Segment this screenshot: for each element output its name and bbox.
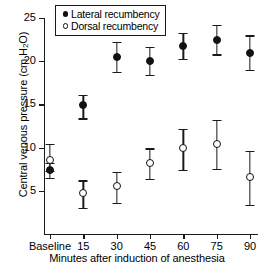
error-bar-cap xyxy=(212,169,221,170)
error-bar-cap xyxy=(246,151,255,152)
x-tick xyxy=(117,234,118,239)
x-tick-label: Baseline xyxy=(29,240,71,252)
y-tick: 10 xyxy=(39,148,44,149)
error-bar-cap xyxy=(79,208,88,209)
x-tick xyxy=(183,234,184,239)
y-axis-title-suffix: O) xyxy=(17,32,29,44)
legend-marker-icon xyxy=(60,23,71,29)
data-point xyxy=(46,156,54,164)
legend-label: Lateral recumbency xyxy=(71,8,160,20)
x-axis-title: Minutes after induction of anesthesia xyxy=(0,252,274,264)
error-bar-cap xyxy=(112,172,121,173)
error-bar-cap xyxy=(246,35,255,36)
error-bar-cap xyxy=(146,179,155,180)
x-tick-label: 45 xyxy=(144,240,156,252)
error-bar-cap xyxy=(179,33,188,34)
y-tick: 15 xyxy=(39,104,44,105)
error-bar-cap xyxy=(212,54,221,55)
error-bar-cap xyxy=(112,72,121,73)
x-tick xyxy=(83,234,84,239)
x-tick-label: 60 xyxy=(177,240,189,252)
data-point xyxy=(79,189,87,197)
x-tick-label: 75 xyxy=(211,240,223,252)
y-axis-line xyxy=(44,18,45,234)
x-tick-label: 30 xyxy=(111,240,123,252)
y-tick-label: 20 xyxy=(24,54,36,66)
x-tick xyxy=(150,234,151,239)
error-bar-cap xyxy=(246,70,255,71)
error-bar-cap xyxy=(179,59,188,60)
y-tick-label: 15 xyxy=(24,97,36,109)
error-bar-cap xyxy=(112,42,121,43)
error-bar-cap xyxy=(146,148,155,149)
y-axis-title: Central venous pressure (cm H2O) xyxy=(17,20,30,210)
chart-legend: Lateral recumbencyDorsal recumbency xyxy=(55,5,166,36)
error-bar-cap xyxy=(212,120,221,121)
y-tick: 5 xyxy=(39,191,44,192)
plot-area: 510152025 Baseline153045607590 xyxy=(44,18,258,234)
y-tick-label: 25 xyxy=(24,11,36,23)
open-circle-icon xyxy=(63,23,69,29)
error-bar-cap xyxy=(79,180,88,181)
chart-figure: Central venous pressure (cm H2O) Minutes… xyxy=(0,0,274,268)
error-bar-cap xyxy=(46,144,55,145)
data-point xyxy=(179,42,187,50)
data-point xyxy=(79,101,87,109)
data-point xyxy=(213,36,221,44)
data-point xyxy=(146,57,154,65)
error-bar-cap xyxy=(79,118,88,119)
error-bar-cap xyxy=(46,171,55,172)
error-bar-cap xyxy=(212,25,221,26)
x-tick xyxy=(250,234,251,239)
data-point xyxy=(113,53,121,61)
error-bar-cap xyxy=(179,170,188,171)
legend-item: Lateral recumbency xyxy=(60,8,160,20)
x-tick xyxy=(50,234,51,239)
error-bar-cap xyxy=(179,129,188,130)
y-axis-title-subscript: 2 xyxy=(21,44,30,48)
y-axis-title-prefix: Central venous pressure (cm H xyxy=(17,48,29,197)
data-point xyxy=(113,182,121,190)
data-point xyxy=(179,144,187,152)
y-tick: 20 xyxy=(39,61,44,62)
error-bar-cap xyxy=(146,47,155,48)
error-bar-cap xyxy=(79,95,88,96)
y-tick-label: 5 xyxy=(30,184,36,196)
data-point xyxy=(146,159,154,167)
filled-circle-icon xyxy=(63,11,69,17)
error-bar-cap xyxy=(146,75,155,76)
y-tick-label: 10 xyxy=(24,141,36,153)
x-tick xyxy=(217,234,218,239)
legend-label: Dorsal recumbency xyxy=(71,20,158,32)
data-point xyxy=(246,49,254,57)
data-point xyxy=(246,173,254,181)
legend-item: Dorsal recumbency xyxy=(60,20,160,32)
x-tick-label: 90 xyxy=(244,240,256,252)
y-tick: 25 xyxy=(39,18,44,19)
error-bar-cap xyxy=(112,203,121,204)
error-bar-cap xyxy=(246,205,255,206)
data-point xyxy=(213,140,221,148)
x-tick-label: 15 xyxy=(77,240,89,252)
error-bar-cap xyxy=(46,178,55,179)
legend-marker-icon xyxy=(60,11,71,17)
